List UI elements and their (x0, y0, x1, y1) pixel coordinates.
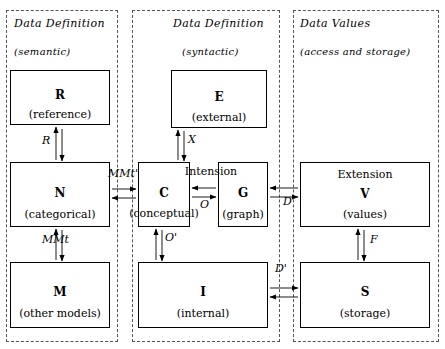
box-categorical[interactable]: N (categorical) (10, 162, 110, 227)
box-graph-caption: (graph) (219, 208, 267, 221)
arrow-label-R: R (42, 134, 50, 147)
box-conceptual-letter: C (139, 186, 189, 200)
panel-semantic-subtitle: (semantic) (14, 46, 71, 57)
arrow-label-F: F (370, 233, 378, 246)
box-storage-letter: S (301, 285, 429, 299)
box-internal[interactable]: I (internal) (138, 262, 268, 328)
box-other-models-caption: (other models) (11, 307, 109, 320)
panel-values-subtitle: (access and storage) (300, 46, 411, 57)
panel-syntactic-title: Data Definition (173, 17, 264, 30)
box-values-letter: V (301, 187, 429, 201)
diagram-canvas: Data Definition (semantic) Data Definiti… (0, 0, 445, 349)
box-other-models-letter: M (11, 285, 109, 299)
box-reference-caption: (reference) (11, 108, 109, 121)
box-storage-caption: (storage) (301, 307, 429, 320)
arrow-label-O: O (200, 198, 209, 211)
box-internal-letter: I (139, 285, 267, 299)
box-other-models[interactable]: M (other models) (10, 262, 110, 328)
arrow-label-D: D (283, 195, 292, 208)
box-reference-letter: R (11, 88, 109, 102)
box-internal-caption: (internal) (139, 307, 267, 320)
panel-semantic-title: Data Definition (14, 17, 105, 30)
arrow-label-X: X (188, 133, 196, 146)
box-graph-letter: G (219, 186, 267, 200)
box-values[interactable]: Extension V (values) (300, 162, 430, 227)
box-external[interactable]: E (external) (171, 70, 267, 128)
arrow-label-MMt: MMt (42, 233, 69, 246)
arrow-label-D-prime: D' (275, 262, 287, 275)
box-external-caption: (external) (172, 111, 266, 124)
box-categorical-letter: N (11, 186, 109, 200)
box-external-letter: E (172, 90, 266, 104)
box-conceptual-caption: (conceptual) (126, 207, 202, 220)
box-values-caption: (values) (301, 208, 429, 221)
panel-syntactic-subtitle: (syntactic) (182, 46, 239, 57)
box-values-top-label: Extension (301, 168, 429, 181)
box-categorical-caption: (categorical) (11, 208, 109, 221)
box-reference[interactable]: R (reference) (10, 70, 110, 125)
intension-group-label: Intension (166, 165, 256, 178)
arrow-label-O-prime: O' (165, 231, 177, 244)
arrow-label-MMt-prime: MMt' (108, 167, 138, 180)
box-storage[interactable]: S (storage) (300, 262, 430, 328)
panel-values-title: Data Values (300, 17, 371, 30)
